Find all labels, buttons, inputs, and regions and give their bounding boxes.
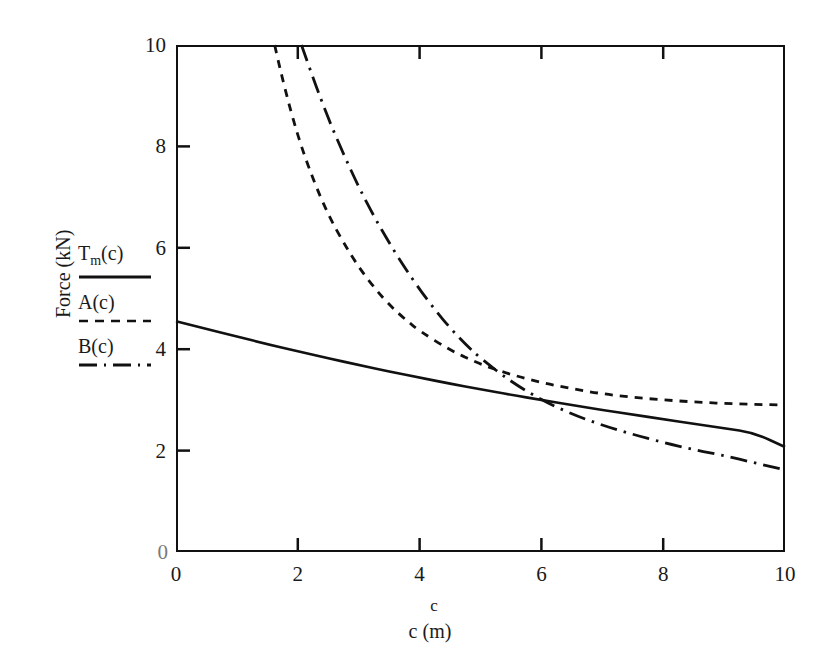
legend-label-tm: Tm(c) bbox=[76, 243, 172, 269]
x-tick-label: 6 bbox=[536, 564, 547, 585]
y-tick-label: 8 bbox=[156, 136, 167, 157]
y-tick-label: 2 bbox=[156, 440, 167, 461]
x-tick-label: 2 bbox=[293, 564, 304, 585]
y-axis-label: Force (kN) bbox=[52, 230, 75, 318]
legend-item-a: A(c) bbox=[76, 292, 172, 335]
legend-item-tm: Tm(c) bbox=[76, 243, 172, 291]
chart-legend: Tm(c) A(c) B(c) bbox=[76, 243, 172, 380]
y-origin-zero-mark: 0 bbox=[158, 540, 169, 565]
legend-swatch-dashed bbox=[78, 315, 152, 327]
legend-label-tm-tail: (c) bbox=[101, 242, 123, 264]
legend-swatch-solid bbox=[78, 271, 152, 283]
y-tick-label: 10 bbox=[145, 35, 166, 56]
legend-item-b: B(c) bbox=[76, 336, 172, 379]
plot-frame bbox=[176, 45, 785, 552]
legend-label-tm-main: T bbox=[78, 242, 90, 264]
legend-label-b: B(c) bbox=[76, 336, 172, 357]
x-tick-label: 0 bbox=[171, 564, 182, 585]
legend-swatch-dashdot bbox=[78, 359, 152, 371]
x-tick-label: 4 bbox=[414, 564, 425, 585]
x-axis-label: c (m) bbox=[409, 620, 452, 643]
x-tick-label: 8 bbox=[658, 564, 669, 585]
legend-label-a: A(c) bbox=[76, 292, 172, 313]
figure-canvas: 0246810 0246810 0 Force (kN) c c (m) Tm(… bbox=[0, 0, 835, 669]
x-tick-label: 10 bbox=[775, 564, 796, 585]
legend-label-tm-sub: m bbox=[90, 253, 101, 268]
x-axis-label-superscript: c bbox=[430, 596, 438, 616]
